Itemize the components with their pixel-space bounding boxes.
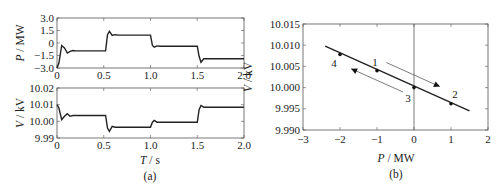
panel-b-droop-plot: −3−2−101210.01510.01010.00510.0009.9959.… (242, 18, 491, 182)
y-tick-label: 10.01 (29, 98, 54, 110)
y-tick-label: 0 (49, 37, 55, 49)
point-label-4: 4 (331, 57, 337, 69)
x-tick-label: 0.5 (97, 69, 111, 81)
y-tick-label: −1.5 (34, 49, 54, 61)
x-axis-label: T / s (140, 154, 160, 166)
y-tick-label: 3.0 (40, 12, 54, 24)
y-tick-label: 10.010 (270, 39, 301, 51)
caption-a: (a) (144, 170, 157, 183)
x-tick-label: 1.5 (190, 139, 204, 151)
plot-frame (57, 18, 244, 68)
y-tick-label: 9.990 (275, 124, 300, 136)
droop-line (325, 46, 469, 111)
operating-point-4 (338, 53, 342, 57)
y-axis-label: P / MW (14, 24, 26, 62)
plot-frame (57, 88, 244, 138)
operating-point-3 (412, 86, 416, 90)
point-label-2: 2 (452, 88, 458, 100)
panel-a-p-plot: 00.51.01.52.03.01.50−1.5−3.0 P / MW (14, 12, 251, 82)
x-axis-label: P / MW (376, 152, 414, 164)
x-tick-label: 0.5 (97, 139, 111, 151)
point-label-3: 3 (405, 92, 411, 104)
y-tick-label: 9.99 (35, 132, 55, 144)
p-series-line (57, 31, 244, 68)
y-axis-label: V / kV (242, 61, 254, 92)
x-tick-label: 1 (448, 133, 454, 145)
x-tick-label: 1.5 (190, 69, 204, 81)
caption-b: (b) (389, 168, 403, 181)
y-tick-label: 10.02 (29, 82, 54, 94)
x-tick-label: 0 (54, 139, 60, 151)
panel-a-v-plot: 00.51.01.52.010.0210.0110.009.99 V / kV … (14, 82, 251, 184)
x-tick-label: 2.0 (237, 139, 251, 151)
operating-point-2 (449, 102, 453, 106)
x-tick-label: 1.0 (144, 69, 158, 81)
y-axis-label: V / kV (14, 97, 26, 128)
y-tick-label: 10.015 (270, 18, 301, 30)
x-tick-label: 2 (485, 133, 491, 145)
point-label-1: 1 (372, 56, 378, 68)
x-tick-label: 0 (54, 69, 60, 81)
operating-point-1 (375, 69, 379, 73)
x-tick-label: −2 (334, 133, 346, 145)
y-tick-label: 1.5 (40, 24, 54, 36)
v-series-line (57, 105, 244, 132)
x-tick-label: −1 (371, 133, 383, 145)
x-tick-label: 1.0 (144, 139, 158, 151)
arrow-1-to-2-shaft (386, 62, 440, 86)
x-tick-label: 0 (411, 133, 417, 145)
y-tick-label: 10.000 (270, 81, 301, 93)
figure: 00.51.01.52.03.01.50−1.5−3.0 P / MW 00.5… (0, 0, 501, 195)
y-tick-label: 9.995 (275, 102, 300, 114)
y-tick-label: 10.005 (270, 60, 301, 72)
y-tick-label: 10.00 (29, 115, 54, 127)
y-tick-label: −3.0 (34, 62, 54, 74)
